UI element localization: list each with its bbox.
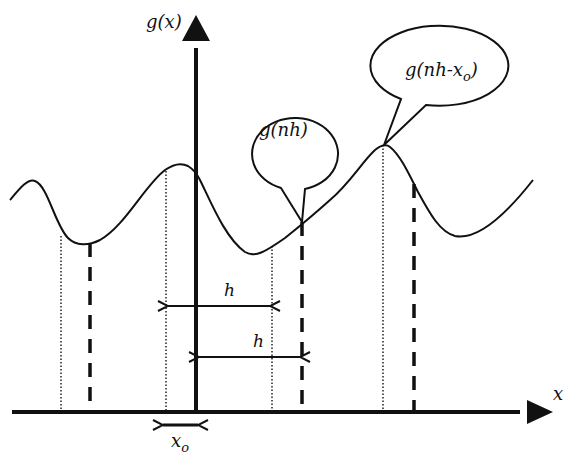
callout-gnh-text: g(nh): [259, 119, 308, 140]
y-axis-arrowhead-icon: [182, 15, 210, 41]
xo-offset-arrow: xo: [163, 425, 198, 455]
h-interval-arrow-1: h: [168, 280, 270, 306]
y-axis-label: g(x): [146, 11, 182, 32]
h-label-1: h: [224, 280, 235, 300]
x-axis-label: x: [553, 383, 563, 404]
h-label-2: h: [253, 331, 264, 351]
x-axis-arrowhead-icon: [527, 400, 553, 424]
y-axis: [182, 15, 210, 414]
diagram-canvas: h h xo g(x) x g(nh) g(nh-xo): [0, 0, 569, 461]
x-axis: [12, 400, 553, 424]
dotted-sample-lines: [61, 145, 383, 410]
callout-gnh: g(nh): [252, 118, 338, 222]
callout-gnh-xo: g(nh-xo): [370, 26, 508, 145]
dashed-sample-lines: [90, 184, 414, 410]
xo-label: xo: [171, 430, 189, 455]
h-interval-arrow-2: h: [199, 331, 300, 357]
